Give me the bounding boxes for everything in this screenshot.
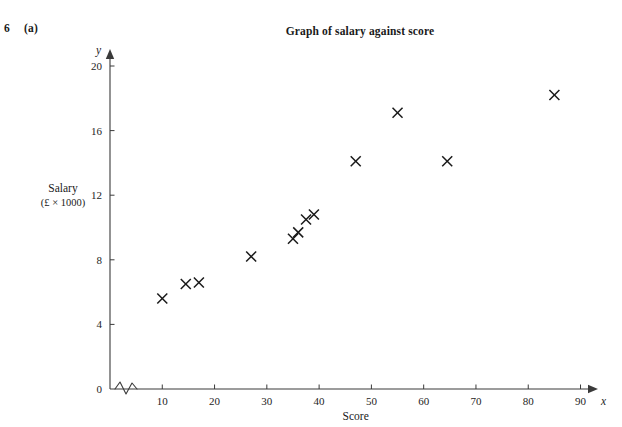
data-point-marker: [442, 156, 452, 166]
x-axis-variable-label: x: [601, 395, 606, 407]
x-axis-title: Score: [343, 410, 369, 422]
y-tick-label: 4: [76, 318, 102, 330]
y-axis-title: Salary (£ × 1000): [41, 181, 85, 209]
x-tick-label: 50: [366, 395, 377, 407]
scatter-plot-figure: 6 (a) Graph of salary against score 1020…: [0, 0, 622, 427]
x-tick-label: 30: [261, 395, 272, 407]
x-axis-break-zigzag: [115, 382, 137, 394]
data-point-marker: [393, 108, 403, 118]
x-axis-arrowhead: [588, 385, 598, 393]
data-point-marker: [181, 279, 191, 289]
y-axis-title-text: Salary: [48, 182, 77, 194]
x-tick-label: 60: [418, 395, 429, 407]
y-tick-label: 0: [76, 383, 102, 395]
data-point-marker: [351, 156, 361, 166]
data-point-marker: [246, 252, 256, 262]
x-tick-label: 80: [523, 395, 534, 407]
x-tick-label: 90: [575, 395, 586, 407]
data-point-marker: [157, 294, 167, 304]
y-tick-label: 16: [76, 125, 102, 137]
y-tick-label: 20: [76, 60, 102, 72]
y-axis-variable-label: y: [96, 44, 101, 56]
y-axis-arrowhead: [106, 49, 114, 59]
y-tick-label: 8: [76, 254, 102, 266]
data-point-marker: [549, 90, 559, 100]
x-tick-label: 70: [470, 395, 481, 407]
x-tick-label: 20: [209, 395, 220, 407]
x-tick-label: 10: [157, 395, 168, 407]
data-point-marker: [288, 234, 298, 244]
data-point-marker: [293, 227, 303, 237]
data-point-marker: [194, 277, 204, 287]
y-axis-unit-text: (£ × 1000): [41, 196, 85, 209]
data-series: [157, 90, 559, 303]
x-tick-label: 40: [314, 395, 325, 407]
